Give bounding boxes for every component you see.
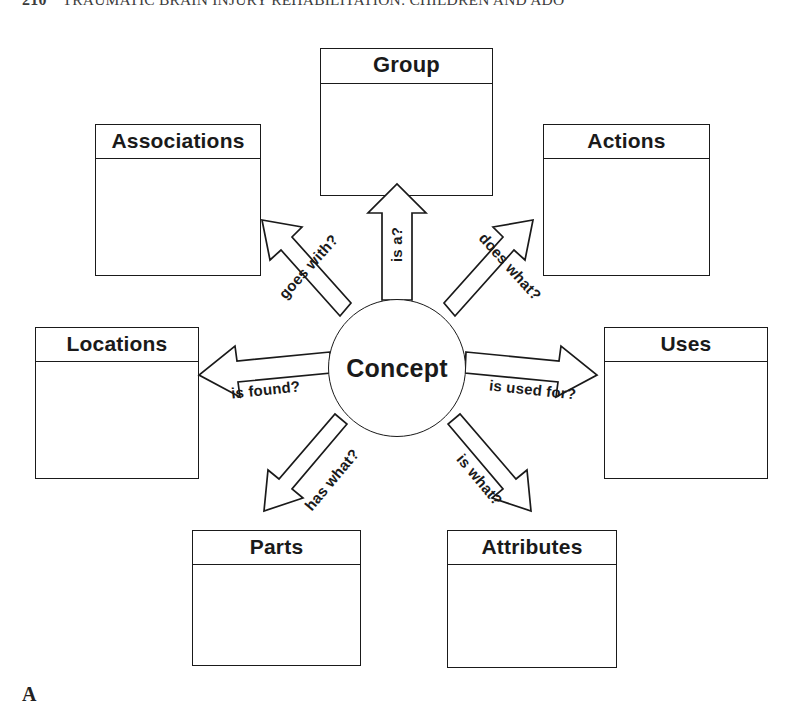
relation-label-is-a: is a? (388, 227, 405, 262)
center-concept-node[interactable]: Concept (328, 299, 466, 437)
center-concept-label: Concept (346, 354, 447, 383)
concept-map-figure: is a? goes with? does what? is found? is… (0, 0, 797, 719)
